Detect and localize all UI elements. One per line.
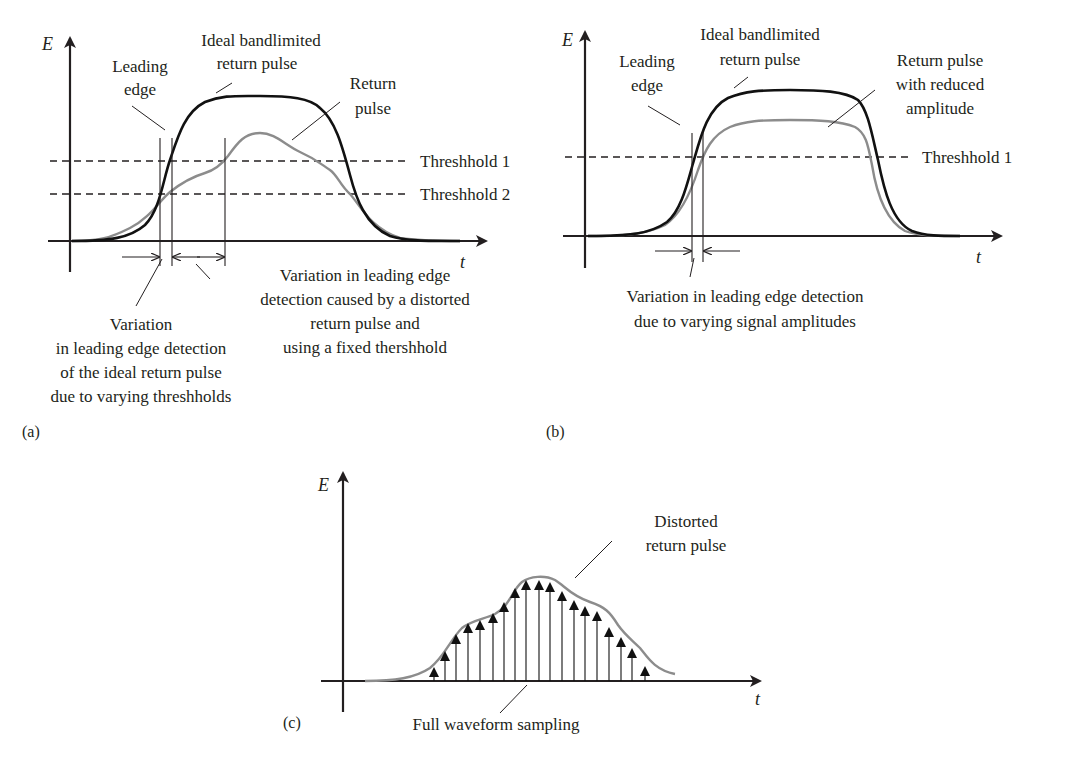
leading-edge-label: Leading <box>112 57 168 76</box>
variation-thresholds-label: of the ideal return pulse <box>60 363 221 382</box>
sample-arrowhead-icon <box>640 666 650 676</box>
ideal-pulse-label: return pulse <box>720 50 801 69</box>
sample-arrowhead-icon <box>557 591 567 601</box>
y-axis-label: E <box>41 34 53 54</box>
return-pulse-label: with reduced <box>896 75 985 94</box>
sample-arrowhead-icon <box>592 611 602 621</box>
return-pulse-label: Return pulse <box>897 51 983 70</box>
distorted-pulse-label: return pulse <box>646 536 727 555</box>
x-axis-label: t <box>460 252 466 272</box>
return-pulse-label: amplitude <box>906 99 974 118</box>
variation-thresholds-label: Variation <box>110 315 173 334</box>
variation-amplitude-label: Variation in leading edge detection <box>627 287 864 306</box>
x-axis-label: t <box>976 247 982 267</box>
leading-edge-label: edge <box>124 80 156 99</box>
ideal-pulse-curve <box>72 96 460 241</box>
leader-leading-edge <box>132 106 165 130</box>
variation-distorted-label: Variation in leading edge <box>280 266 450 285</box>
ideal-pulse-label: Ideal bandlimited <box>700 25 820 44</box>
panel-a: E t Threshhold 1 Threshhold 2 Leading ed… <box>22 31 510 441</box>
sample-arrowhead-icon <box>580 606 590 616</box>
y-axis-label: E <box>561 30 573 50</box>
leading-edge-label: Leading <box>619 52 675 71</box>
sample-arrowhead-icon <box>510 588 520 598</box>
leader-ideal-pulse <box>734 77 748 88</box>
sampling-label: Full waveform sampling <box>412 715 580 734</box>
y-axis-label: E <box>317 475 329 495</box>
panel-a-label: (a) <box>22 423 40 441</box>
return-pulse-curve <box>72 133 460 241</box>
leader-variation-thresholds <box>136 259 162 306</box>
leader-return-pulse <box>292 102 340 140</box>
sample-arrowhead-icon <box>616 637 626 647</box>
sample-arrowhead-icon <box>463 623 473 633</box>
variation-thresholds-label: due to varying threshholds <box>51 387 232 406</box>
return-pulse-label: pulse <box>355 99 391 118</box>
figure-canvas: E t Threshhold 1 Threshhold 2 Leading ed… <box>0 0 1072 763</box>
threshold-1-label: Threshhold 1 <box>922 148 1012 167</box>
leader-leading-edge <box>648 106 680 125</box>
panel-c-label: (c) <box>283 714 301 732</box>
distorted-pulse-curve <box>365 577 675 681</box>
ideal-pulse-curve <box>588 90 960 236</box>
x-axis-label: t <box>755 689 761 709</box>
threshold-1-label: Threshhold 1 <box>420 152 510 171</box>
leader-variation-distorted <box>196 264 210 279</box>
variation-amplitude-label: due to varying signal amplitudes <box>634 312 856 331</box>
panel-b-label: (b) <box>546 423 565 441</box>
sample-arrowhead-icon <box>604 627 614 637</box>
variation-distorted-label: detection caused by a distorted <box>260 290 470 309</box>
panel-b: E t Threshhold 1 Leading edge Ideal band… <box>546 25 1012 441</box>
distorted-pulse-label: Distorted <box>654 512 718 531</box>
leader-distorted-pulse <box>575 541 612 578</box>
leader-sampling <box>500 685 527 713</box>
variation-thresholds-label: in leading edge detection <box>56 339 227 358</box>
reduced-amplitude-pulse-curve <box>588 120 960 236</box>
panel-c: E t Distorted return pulse Full waveform… <box>283 473 761 734</box>
leader-ideal-pulse <box>216 83 232 93</box>
sample-arrowhead-icon <box>569 600 579 610</box>
threshold-2-label: Threshhold 2 <box>420 185 510 204</box>
ideal-pulse-label: Ideal bandlimited <box>201 31 321 50</box>
sample-stems <box>429 580 650 681</box>
leading-edge-label: edge <box>631 76 663 95</box>
variation-distorted-label: using a fixed thershhold <box>283 338 447 357</box>
return-pulse-label: Return <box>350 74 397 93</box>
ideal-pulse-label: return pulse <box>217 54 298 73</box>
sample-arrowhead-icon <box>627 648 637 658</box>
variation-distorted-label: return pulse and <box>310 314 420 333</box>
sample-arrowhead-icon <box>545 582 555 592</box>
sample-arrowhead-icon <box>534 580 544 590</box>
